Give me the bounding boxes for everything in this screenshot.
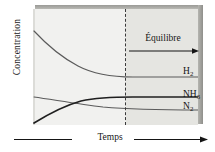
series-label-n2: N2 bbox=[183, 101, 193, 111]
series-label-nh3-base: NH bbox=[183, 89, 197, 99]
concentration-vs-time-figure: Concentration Équilibre H2 NH3 N2 bbox=[0, 0, 215, 152]
y-axis-label: Concentration bbox=[12, 2, 22, 92]
curve-n2 bbox=[34, 97, 198, 110]
x-axis-label: Temps bbox=[86, 132, 134, 142]
series-label-nh3: NH3 bbox=[183, 89, 200, 99]
series-label-n2-base: N bbox=[183, 101, 190, 111]
series-label-h2-base: H bbox=[183, 66, 190, 76]
plot-area bbox=[33, 9, 198, 125]
plot-frame bbox=[33, 5, 203, 126]
x-axis: Temps bbox=[12, 130, 208, 148]
series-label-nh3-sub: 3 bbox=[197, 93, 200, 100]
series-label-h2-sub: 2 bbox=[190, 70, 193, 77]
equilibrium-annotation: Équilibre bbox=[128, 33, 202, 55]
equilibrium-label: Équilibre bbox=[128, 33, 198, 43]
equilibrium-dashed-line bbox=[125, 9, 126, 125]
curves-group bbox=[33, 9, 198, 125]
series-label-h2: H2 bbox=[183, 66, 193, 76]
plot-frame-right-shadow bbox=[198, 5, 203, 124]
series-label-n2-sub: 2 bbox=[190, 105, 193, 112]
equilibrium-arrow-icon bbox=[129, 48, 199, 55]
